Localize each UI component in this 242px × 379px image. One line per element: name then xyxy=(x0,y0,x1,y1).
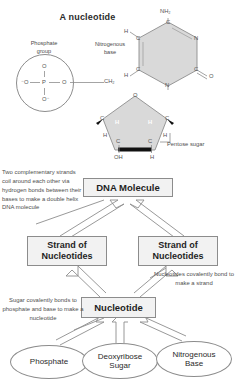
sugar-line1: Deoxyribose xyxy=(98,352,142,361)
note-double-helix: Two complementary strands coil around ea… xyxy=(2,168,82,212)
box-strand-left-label: Strand of Nucleotides xyxy=(41,240,92,263)
box-strand-right-label: Strand of Nucleotides xyxy=(152,240,203,263)
ellipse-phosphate[interactable]: Phosphate xyxy=(10,345,88,379)
base-line2: Base xyxy=(185,359,203,368)
ellipse-phosphate-label: Phosphate xyxy=(30,357,68,366)
box-nucleotide-label: Nucleotide xyxy=(94,302,143,314)
ellipse-base-label: Nitrogenous Base xyxy=(172,350,215,368)
box-dna-molecule[interactable]: DNA Molecule xyxy=(83,178,173,197)
box-nucleotide[interactable]: Nucleotide xyxy=(81,297,156,318)
strand-right-line2: Nucleotides xyxy=(152,251,203,261)
note-sugar-covalent: Sugar covalently bonds to phosphate and … xyxy=(2,296,84,323)
strand-left-line2: Nucleotides xyxy=(41,251,92,261)
strand-right-line1: Strand of xyxy=(158,240,198,250)
strand-left-line1: Strand of xyxy=(47,240,87,250)
note-covalent-strand: Nucleotides covalently bond to make a st… xyxy=(148,270,240,288)
box-dna-molecule-label: DNA Molecule xyxy=(96,182,160,194)
ellipse-sugar-label: Deoxyribose Sugar xyxy=(98,352,142,370)
ellipse-deoxyribose-sugar[interactable]: Deoxyribose Sugar xyxy=(82,343,158,379)
ellipse-nitrogenous-base[interactable]: Nitrogenous Base xyxy=(156,341,232,377)
box-strand-of-nucleotides-right[interactable]: Strand of Nucleotides xyxy=(138,236,218,266)
sugar-line2: Sugar xyxy=(109,361,130,370)
box-strand-of-nucleotides-left[interactable]: Strand of Nucleotides xyxy=(27,236,107,266)
base-line1: Nitrogenous xyxy=(172,350,215,359)
